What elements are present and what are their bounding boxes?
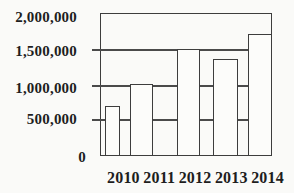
- bar-2012: [177, 49, 200, 156]
- bar-2011: [130, 84, 153, 156]
- y-axis-label-2000000: 2,000,000: [7, 9, 77, 26]
- y-tick-500000: [92, 119, 101, 121]
- x-axis-label-2011: 2011: [143, 169, 175, 187]
- y-tick-1500000: [92, 49, 101, 51]
- bar-chart-figure: 2,000,000 1,500,000 1,000,000 500,000 0 …: [0, 0, 294, 193]
- bar-2010: [105, 106, 120, 156]
- bar-2014: [248, 34, 272, 156]
- x-axis-label-2013: 2013: [215, 169, 248, 187]
- x-axis-labels: 2010 2011 2012 2013 2014: [107, 169, 284, 187]
- bar-2013: [213, 59, 238, 156]
- x-axis-label-2014: 2014: [251, 169, 284, 187]
- y-axis-label-0: 0: [16, 149, 86, 166]
- y-axis-label-1500000: 1,500,000: [7, 43, 77, 60]
- x-axis-label-2012: 2012: [179, 169, 212, 187]
- x-axis-label-2010: 2010: [107, 169, 140, 187]
- y-axis-label-500000: 500,000: [7, 111, 77, 128]
- y-axis-label-1000000: 1,000,000: [7, 80, 77, 97]
- y-tick-1000000: [92, 85, 101, 87]
